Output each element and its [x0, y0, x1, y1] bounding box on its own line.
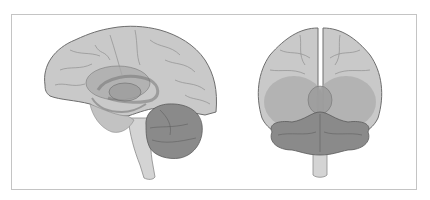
midbrain [308, 86, 332, 114]
lateral-view [45, 26, 217, 179]
thalamus [109, 83, 141, 101]
posterior-view [258, 28, 381, 177]
cerebellum [146, 104, 202, 159]
brain-illustration [0, 0, 430, 200]
